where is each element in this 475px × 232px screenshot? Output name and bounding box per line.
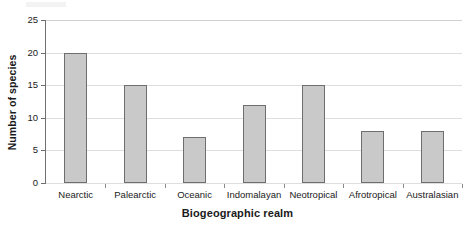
- x-tick-label-nearctic: Nearctic: [58, 190, 93, 200]
- bar-chart-figure: Number of species 0510152025 Biogeograph…: [0, 0, 475, 232]
- bar-neotropical: [302, 85, 325, 183]
- x-tick-label-palearctic: Palearctic: [114, 190, 156, 200]
- y-tick-label-15: 15: [27, 80, 38, 90]
- gridline-25: [46, 20, 462, 21]
- x-tick-label-indomalayan: Indomalayan: [227, 190, 281, 200]
- bar-australasian: [421, 131, 444, 183]
- y-tick-mark-0: [41, 183, 45, 184]
- y-tick-label-20: 20: [27, 48, 38, 58]
- bar-afrotropical: [361, 131, 384, 183]
- x-tick-label-australasian: Australasian: [406, 190, 458, 200]
- bar-nearctic: [64, 53, 87, 183]
- y-tick-mark-25: [41, 20, 45, 21]
- y-tick-mark-20: [41, 53, 45, 54]
- y-tick-label-0: 0: [33, 178, 38, 188]
- y-tick-mark-5: [41, 150, 45, 151]
- x-tick-mark-3: [224, 184, 225, 188]
- x-tick-mark-5: [343, 184, 344, 188]
- x-tick-label-neotropical: Neotropical: [289, 190, 337, 200]
- gridline-20: [46, 53, 462, 54]
- y-tick-label-5: 5: [33, 146, 38, 156]
- plot-area: 0510152025: [46, 20, 462, 183]
- y-tick-label-10: 10: [27, 113, 38, 123]
- y-axis-title: Number of species: [3, 15, 21, 190]
- bar-oceanic: [183, 137, 206, 183]
- x-tick-label-oceanic: Oceanic: [177, 190, 212, 200]
- x-tick-label-afrotropical: Afrotropical: [349, 190, 397, 200]
- x-tick-mark-1: [105, 184, 106, 188]
- x-tick-mark-6: [403, 184, 404, 188]
- x-tick-mark-4: [284, 184, 285, 188]
- x-axis-title: Biogeographic realm: [0, 208, 475, 219]
- bar-palearctic: [124, 85, 147, 183]
- x-tick-mark-end: [462, 184, 463, 188]
- x-tick-mark-2: [165, 184, 166, 188]
- gridline-0: [46, 183, 462, 184]
- y-tick-label-25: 25: [27, 15, 38, 25]
- bar-indomalayan: [243, 105, 266, 183]
- y-tick-mark-15: [41, 85, 45, 86]
- gridline-15: [46, 85, 462, 86]
- scan-artifact: [26, 2, 66, 7]
- y-tick-mark-10: [41, 118, 45, 119]
